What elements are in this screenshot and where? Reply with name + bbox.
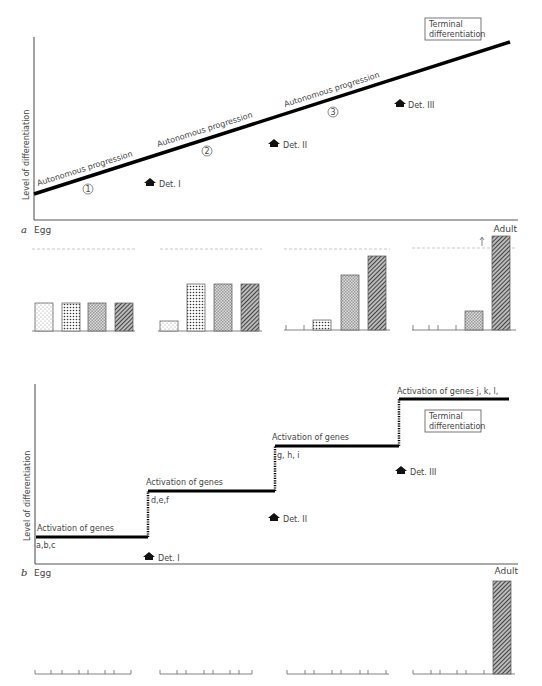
figure: Level of differentiation a Egg Adult Ter… [0,0,542,686]
bar-group-1 [32,249,135,331]
svg-text:Det. III: Det. III [410,468,436,477]
svg-text:differentiation: differentiation [429,30,485,39]
svg-text:1: 1 [85,185,90,194]
svg-text:3: 3 [330,108,335,117]
step-label-1-title: Activation of genes [37,524,114,533]
step-label-1-genes: a,b,c [36,541,55,550]
bar-group-4 [412,236,516,330]
det-marker-b-1: Det. I [143,552,180,563]
panel-b: Level of differentiation b Egg Adult Act… [21,384,518,674]
det-marker-2: Det. II [268,139,307,150]
panel-a-progression-line [34,42,510,194]
step-label-2-genes: d,e,f [151,496,169,505]
step-label-3-title: Activation of genes [272,433,349,442]
panel-a-bar-groups [32,236,516,331]
panel-b-letter: b [21,567,27,578]
svg-text:2: 2 [204,147,209,156]
bar-group-b-3 [287,670,389,674]
bar-group-3 [284,249,390,330]
svg-text:differentiation: differentiation [429,422,485,431]
terminal-differentiation-box-b: Terminal differentiation [425,410,485,432]
terminal-gene-bar [493,581,511,674]
bar-group-b-2 [160,670,252,674]
panel-a-egg-label: Egg [34,225,51,235]
svg-text:Terminal: Terminal [428,20,463,29]
step-label-3-genes: g, h, i [277,451,300,460]
panel-a-y-label: Level of differentiation [22,110,31,200]
step-label-2-title: Activation of genes [146,478,223,487]
svg-text:Det. III: Det. III [408,101,434,110]
svg-text:Det. II: Det. II [283,141,307,150]
panel-a-letter: a [21,224,27,235]
det-marker-b-3: Det. III [395,466,436,477]
svg-text:Det. I: Det. I [158,554,180,563]
svg-text:Det. II: Det. II [283,515,307,524]
bar-group-2 [158,249,262,331]
det-marker-b-2: Det. II [268,513,307,524]
panel-a: Level of differentiation a Egg Adult Ter… [21,18,518,331]
panel-b-adult-label: Adult [495,566,519,576]
panel-b-y-label: Level of differentiation [23,451,32,541]
det-marker-1: Det. I [144,178,181,189]
svg-text:Det. I: Det. I [159,180,181,189]
det-marker-3: Det. III [394,99,434,110]
svg-text:Terminal: Terminal [428,412,463,421]
panel-a-adult-label: Adult [494,224,518,234]
stage-number-1: 1 [83,184,93,194]
step-label-4-title: Activation of genes j, k, l, [397,387,498,396]
terminal-differentiation-box-a: Terminal differentiation [425,18,485,40]
bar-group-b-1 [35,670,131,674]
panel-b-egg-label: Egg [34,568,51,578]
stage-number-3: 3 [328,107,338,117]
stage-number-2: 2 [202,146,212,156]
panel-b-bar-groups [35,670,515,674]
